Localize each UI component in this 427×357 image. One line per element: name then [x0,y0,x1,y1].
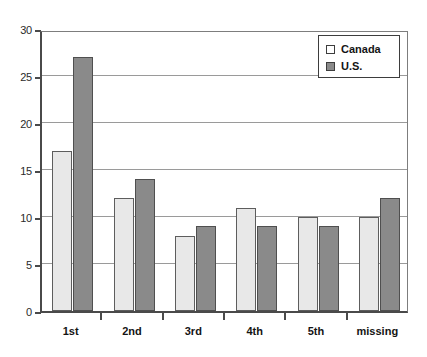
x-tick-mark [100,313,102,320]
bar-canada-5th [298,217,318,311]
x-category-label-5th: 5th [285,325,346,337]
bar-canada-1st [52,151,72,311]
y-tick-label: 5 [2,259,32,271]
bar-us-5th [319,226,339,311]
bar-canada-3rd [175,236,195,311]
bar-us-3rd [196,226,216,311]
x-category-label-missing: missing [347,325,408,337]
x-tick-mark [284,313,286,320]
bar-canada-missing [359,217,379,311]
legend-label-us: U.S. [341,61,362,72]
gridline [42,216,407,217]
x-category-label-2nd: 2nd [101,325,162,337]
x-category-label-4th: 4th [224,325,285,337]
bar-us-4th [257,226,277,311]
gridline [42,263,407,264]
y-tick-label: 30 [2,24,32,36]
y-tick-label: 20 [2,118,32,130]
y-tick-label: 25 [2,71,32,83]
bar-us-1st [73,57,93,311]
bar-chart: 051015202530 1st2nd3rd4th5thmissing Cana… [0,0,427,357]
x-category-label-1st: 1st [40,325,101,337]
chart-legend: Canada U.S. [318,35,400,78]
bar-canada-2nd [114,198,134,311]
y-tick-label: 10 [2,212,32,224]
legend-label-canada: Canada [341,44,381,55]
gridline [42,122,407,123]
y-tick-label: 15 [2,165,32,177]
x-tick-mark [346,313,348,320]
x-tick-mark [223,313,225,320]
x-tick-mark [162,313,164,320]
bar-canada-4th [236,208,256,311]
bar-us-2nd [135,179,155,311]
bar-us-missing [380,198,400,311]
legend-item-us: U.S. [326,58,399,74]
gridline [42,169,407,170]
x-category-label-3rd: 3rd [163,325,224,337]
y-tick-label: 0 [2,306,32,318]
legend-swatch-us-icon [326,62,335,71]
legend-swatch-canada-icon [326,45,335,54]
legend-item-canada: Canada [326,41,399,57]
